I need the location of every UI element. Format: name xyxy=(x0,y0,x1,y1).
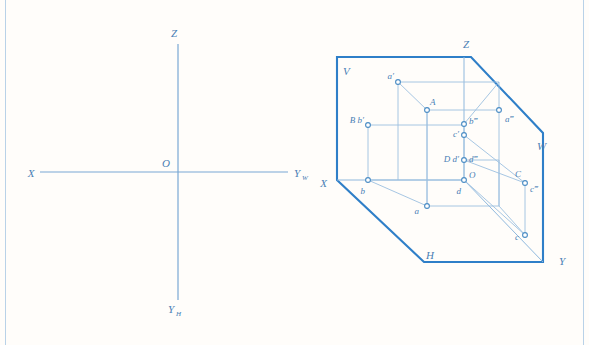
label-axis-z: Z xyxy=(463,38,470,50)
label-b: b xyxy=(361,186,366,196)
label-plane-h: H xyxy=(425,249,435,261)
marker-Dd-prime xyxy=(462,158,467,163)
label-b-dprime: b‴ xyxy=(469,116,479,126)
marker-Bb-prime xyxy=(366,123,371,128)
label-Dd-prime: D d′ xyxy=(443,154,460,164)
marker-Cc-dprime xyxy=(523,181,528,186)
label-O: O xyxy=(469,170,476,180)
label-Bb-prime: B b′ xyxy=(350,115,365,125)
left-axis-cross: X Y W Z Y H O xyxy=(27,27,309,318)
marker-a xyxy=(425,204,430,209)
right-projection-box: V W H X Y Z a′ A a‴ a B b′ b‴ b c′ C c‴ … xyxy=(319,38,567,267)
label-a: a xyxy=(415,206,420,216)
left-label-z: Z xyxy=(171,27,178,39)
label-C: C xyxy=(515,169,522,179)
left-label-x: X xyxy=(27,167,36,179)
marker-b-dprime xyxy=(462,122,467,127)
line-aprime-to-A xyxy=(398,82,427,110)
label-plane-v: V xyxy=(343,65,351,77)
marker-b xyxy=(366,178,371,183)
left-label-origin: O xyxy=(162,157,170,169)
label-c-prime: c′ xyxy=(453,129,460,139)
left-label-yh-subscript: H xyxy=(175,310,182,318)
label-plane-w: W xyxy=(537,140,547,152)
marker-a-prime xyxy=(396,80,401,85)
marker-a-dprime xyxy=(497,108,502,113)
marker-A xyxy=(425,108,430,113)
label-d-dprime: d‴ xyxy=(469,154,479,164)
label-c: c xyxy=(515,232,519,242)
label-axis-x: X xyxy=(319,177,328,189)
line-O-to-c xyxy=(464,180,525,235)
label-d: d xyxy=(457,186,462,196)
line-b-to-a xyxy=(368,180,427,206)
label-axis-y: Y xyxy=(559,255,567,267)
marker-O-d xyxy=(462,178,467,183)
left-label-yw: Y xyxy=(294,167,302,179)
label-A: A xyxy=(429,97,436,107)
marker-c xyxy=(523,233,528,238)
left-label-yw-subscript: W xyxy=(302,174,309,182)
left-label-yh: Y xyxy=(168,303,176,315)
drawing-canvas: X Y W Z Y H O xyxy=(0,0,589,345)
marker-c-prime xyxy=(462,133,467,138)
drawing-page: X Y W Z Y H O xyxy=(0,0,589,345)
label-a-dprime: a‴ xyxy=(505,114,515,124)
label-c-dprime: c‴ xyxy=(530,184,539,194)
label-a-prime: a′ xyxy=(388,71,396,81)
